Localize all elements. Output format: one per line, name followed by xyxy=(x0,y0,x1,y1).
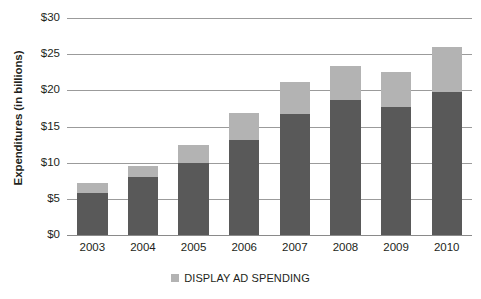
y-tick-label: $20 xyxy=(16,84,60,96)
x-tick-label-2007: 2007 xyxy=(270,240,321,254)
bar-2009[interactable] xyxy=(381,72,411,235)
x-tick-label-2010: 2010 xyxy=(421,240,472,254)
x-tick-label-2003: 2003 xyxy=(67,240,118,254)
gridline xyxy=(67,235,472,236)
bar-2003[interactable] xyxy=(77,183,107,235)
bar-segment-2009-base-spending[interactable] xyxy=(381,107,411,235)
bar-segment-2003-display-ad-spending[interactable] xyxy=(77,183,107,193)
x-tick-label-2006: 2006 xyxy=(219,240,270,254)
bar-segment-2007-base-spending[interactable] xyxy=(280,114,310,235)
bar-segment-2005-display-ad-spending[interactable] xyxy=(178,145,208,163)
y-tick-label: $0 xyxy=(16,229,60,241)
bar-segment-2006-base-spending[interactable] xyxy=(229,140,259,235)
x-tick-label-2009: 2009 xyxy=(371,240,422,254)
bar-segment-2004-base-spending[interactable] xyxy=(128,177,158,235)
bar-segment-2003-base-spending[interactable] xyxy=(77,193,107,235)
bar-segment-2005-base-spending[interactable] xyxy=(178,163,208,235)
y-tick-label: $10 xyxy=(16,157,60,169)
bar-series-container xyxy=(67,18,472,235)
chart-legend: DISPLAY AD SPENDING xyxy=(0,272,481,284)
x-axis-tick-labels: 20032004200520062007200820092010 xyxy=(67,240,472,258)
bar-2007[interactable] xyxy=(280,82,310,235)
bar-segment-2010-base-spending[interactable] xyxy=(432,92,462,235)
y-tick-label: $5 xyxy=(16,193,60,205)
bar-2010[interactable] xyxy=(432,47,462,235)
bar-segment-2008-display-ad-spending[interactable] xyxy=(330,66,360,100)
y-tick-label: $15 xyxy=(16,121,60,133)
bar-segment-2008-base-spending[interactable] xyxy=(330,100,360,235)
bar-2005[interactable] xyxy=(178,145,208,235)
bar-segment-2006-display-ad-spending[interactable] xyxy=(229,113,259,140)
y-tick-label: $30 xyxy=(16,12,60,24)
y-tick-label: $25 xyxy=(16,48,60,60)
x-tick-label-2008: 2008 xyxy=(320,240,371,254)
bar-2008[interactable] xyxy=(330,66,360,235)
bar-segment-2004-display-ad-spending[interactable] xyxy=(128,166,158,177)
x-tick-label-2004: 2004 xyxy=(118,240,169,254)
stacked-bar-chart: Expenditures (in billions) $0$5$10$15$20… xyxy=(0,0,481,299)
bar-segment-2009-display-ad-spending[interactable] xyxy=(381,72,411,107)
bar-segment-2007-display-ad-spending[interactable] xyxy=(280,82,310,115)
x-tick-label-2005: 2005 xyxy=(168,240,219,254)
legend-item-label: DISPLAY AD SPENDING xyxy=(184,272,310,284)
legend-swatch-icon xyxy=(171,274,179,282)
bar-2006[interactable] xyxy=(229,113,259,235)
bar-segment-2010-display-ad-spending[interactable] xyxy=(432,47,462,92)
bar-2004[interactable] xyxy=(128,166,158,235)
y-axis-tick-labels: $0$5$10$15$20$25$30 xyxy=(14,18,60,235)
plot-area xyxy=(67,18,472,235)
